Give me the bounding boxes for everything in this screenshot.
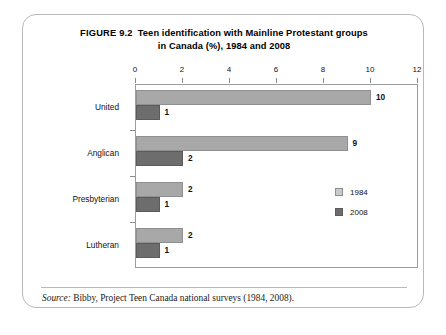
figure-title-line2: in Canada (%), 1984 and 2008 [158,41,291,51]
x-axis-tick-mark [323,78,324,83]
x-axis-tick-label: 6 [274,65,278,74]
bar-value-label: 1 [165,197,170,212]
source-note: Source: Bibby, Project Teen Canada natio… [42,293,294,303]
bar-1984-presbyterian [136,182,183,197]
plot-frame-right-edge [417,84,418,268]
x-axis-tick-label: 0 [133,65,137,74]
bar-1984-lutheran [136,228,183,243]
figure-title-line1: Teen identification with Mainline Protes… [138,28,368,38]
x-axis-tick-label: 8 [321,65,325,74]
legend-item: 2008 [335,205,368,219]
figure-card: FIGURE 9.2Teen identification with Mainl… [22,14,424,308]
x-axis-tick-label: 12 [413,65,422,74]
bar-1984-anglican [136,136,348,151]
bar-value-label: 2 [188,228,193,243]
category-label: Anglican [33,148,129,158]
figure-title: FIGURE 9.2Teen identification with Mainl… [41,27,407,53]
bar-value-label: 2 [188,151,193,166]
bar-1984-united [136,90,371,105]
bar-value-label: 1 [165,243,170,258]
bar-2008-anglican [136,151,183,166]
bar-value-label: 9 [353,136,358,151]
x-axis-tick-mark [229,78,230,83]
source-label: Source: [42,293,71,303]
x-axis-tick-labels: 024681012 [39,65,411,81]
legend-swatch-2008-icon [335,208,343,216]
bar-value-label: 2 [188,182,193,197]
bar-2008-lutheran [136,243,160,258]
legend-item: 1984 [335,185,368,199]
y-axis-tick-mark [130,130,135,131]
y-axis-tick-mark [130,222,135,223]
x-axis-tick-label: 2 [180,65,184,74]
category-label: Presbyterian [33,194,129,204]
x-axis-tick-mark [182,78,183,83]
x-axis-tick-label: 10 [366,65,375,74]
source-divider [41,287,407,288]
y-axis-tick-mark [130,176,135,177]
plot-area: 101922121 [135,84,417,268]
bar-value-label: 10 [376,90,385,105]
x-axis-tick-mark [276,78,277,83]
x-axis-tick-mark [135,78,136,83]
figure-number: FIGURE 9.2 [80,28,138,38]
x-axis-tick-mark [417,78,418,83]
x-axis-tick-label: 4 [227,65,231,74]
source-text: Bibby, Project Teen Canada national surv… [71,293,294,303]
legend-label-1984: 1984 [350,188,368,197]
category-label: Lutheran [33,240,129,250]
legend-swatch-1984-icon [335,188,343,196]
bar-2008-presbyterian [136,197,160,212]
bar-value-label: 1 [165,105,170,120]
chart-plot-wrapper: 024681012 101922121 1984 2008 UnitedAngl… [39,65,411,277]
chart-legend: 1984 2008 [335,185,368,225]
bar-2008-united [136,105,160,120]
legend-label-2008: 2008 [350,208,368,217]
x-axis-tick-mark [370,78,371,83]
category-label: United [33,102,129,112]
